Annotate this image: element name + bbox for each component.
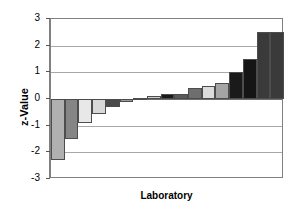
y-axis-tick-label: 3	[24, 13, 40, 23]
gridline	[51, 46, 282, 47]
y-axis-tick-label: 1	[24, 66, 40, 76]
bar	[161, 94, 175, 99]
y-axis-tick-label: 0	[24, 93, 40, 103]
bar	[78, 99, 92, 123]
bar	[270, 32, 284, 99]
bar	[188, 88, 202, 99]
bar	[120, 99, 134, 102]
chart-figure: z-Value 3210-1-2-3 Laboratory	[0, 0, 297, 214]
y-axis-tick-label: 2	[24, 40, 40, 50]
bar	[174, 94, 188, 99]
y-axis-tick	[46, 45, 50, 46]
bar	[92, 99, 106, 114]
bar	[51, 99, 65, 160]
bar	[215, 83, 229, 99]
x-axis-title: Laboratory	[50, 190, 283, 201]
bar	[133, 98, 147, 100]
y-axis-tick-label: -2	[24, 146, 40, 156]
bar	[257, 32, 271, 99]
bar	[243, 59, 257, 99]
y-axis-tick-label: -1	[24, 120, 40, 130]
y-axis-tick	[46, 151, 50, 152]
y-axis-tick	[46, 71, 50, 72]
y-axis-tick	[46, 178, 50, 179]
bar	[65, 99, 79, 139]
plot-area	[50, 18, 283, 178]
bar	[106, 99, 120, 107]
y-axis-tick	[46, 18, 50, 19]
bar	[202, 86, 216, 99]
bar	[147, 96, 161, 99]
bar	[229, 72, 243, 99]
gridline	[51, 126, 282, 127]
y-axis-tick	[46, 125, 50, 126]
gridline	[51, 152, 282, 153]
y-axis-tick-label: -3	[24, 173, 40, 183]
y-axis-tick	[46, 98, 50, 99]
